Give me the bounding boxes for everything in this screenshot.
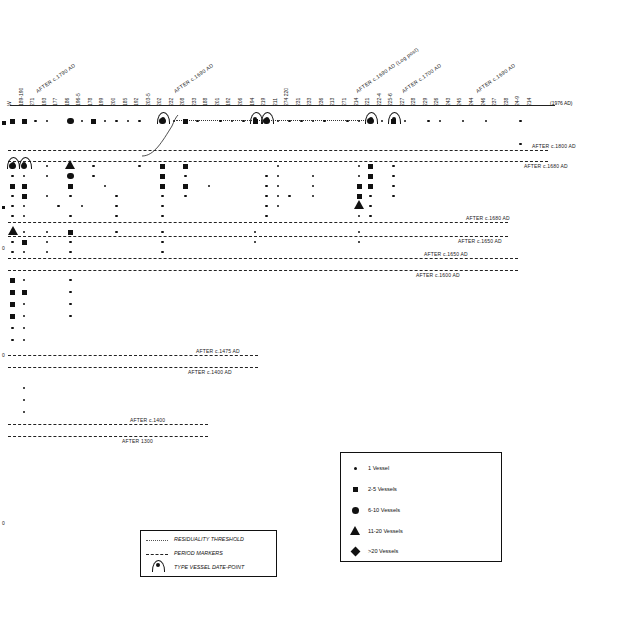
data-point-d1 <box>92 165 95 168</box>
left-margin-marker <box>2 121 6 125</box>
data-point-d1 <box>11 215 14 218</box>
data-point-d1 <box>69 195 72 198</box>
diagonal-annotation: AFTER c.1690 AD <box>475 62 517 94</box>
data-point-d1 <box>11 241 14 244</box>
data-point-d1 <box>115 215 118 218</box>
type-vessel-dot <box>392 117 396 121</box>
diagonal-annotation: AFTER c.1790 AD <box>35 62 77 94</box>
data-point-d1 <box>69 241 72 244</box>
period-label-upper: AFTER c.1400 <box>130 417 165 423</box>
data-point-d1 <box>312 185 315 188</box>
diagonal-annotation: AFTER c.1690 AD <box>173 62 215 94</box>
x-tick-label: 274 220 <box>283 88 289 106</box>
data-point-d1 <box>277 165 280 168</box>
data-point-d1 <box>69 291 72 294</box>
data-point-d2 <box>368 184 373 189</box>
data-point-d1 <box>265 205 268 208</box>
data-point-d1 <box>161 205 164 208</box>
data-point-d2 <box>368 174 373 179</box>
data-point-d1 <box>358 241 361 244</box>
data-point-d2 <box>22 240 27 245</box>
data-point-d1 <box>23 231 26 234</box>
data-point-d2 <box>183 119 188 124</box>
data-point-d1 <box>358 215 361 218</box>
legend-symbol-label: 2-5 Vessels <box>368 486 397 492</box>
data-point-d1 <box>358 175 361 178</box>
data-point-d2 <box>68 230 73 235</box>
legend-symbols-box <box>340 452 502 562</box>
data-point-d1 <box>404 120 407 123</box>
period-label-lower: AFTER c.1650 AD <box>458 238 502 244</box>
data-point-d1 <box>23 205 26 208</box>
data-point-d1 <box>23 279 26 282</box>
data-point-d1 <box>23 175 26 178</box>
data-point-d1 <box>485 120 488 123</box>
data-point-d1 <box>23 251 26 254</box>
data-point-tri <box>65 160 75 169</box>
data-point-d1 <box>138 165 141 168</box>
data-point-d1 <box>300 120 303 123</box>
period-label-lower: AFTER 1300 <box>122 438 153 444</box>
data-point-d1 <box>196 120 199 123</box>
data-point-d1 <box>23 327 26 330</box>
data-point-d2 <box>22 184 27 189</box>
period-marker-line <box>8 367 258 368</box>
data-point-d1 <box>427 120 430 123</box>
data-point-d1 <box>46 195 49 198</box>
data-point-d1 <box>219 120 222 123</box>
data-point-d1 <box>358 120 361 123</box>
data-point-d1 <box>265 215 268 218</box>
data-point-d1 <box>34 120 37 123</box>
period-marker-line <box>8 424 208 425</box>
data-point-d1 <box>23 315 26 318</box>
data-point-d1 <box>161 231 164 234</box>
data-point-d1 <box>46 175 49 178</box>
data-point-d1 <box>104 185 107 188</box>
data-point-d1 <box>392 195 395 198</box>
period-label-lower: AFTER c.1400 AD <box>188 369 232 375</box>
period-label-upper: AFTER c.1475 AD <box>196 348 240 354</box>
data-point-d1 <box>69 315 72 318</box>
data-point-d2 <box>10 290 15 295</box>
left-margin-marker <box>2 206 5 209</box>
data-point-d1 <box>92 175 95 178</box>
data-point-d1 <box>265 175 268 178</box>
data-point-d2 <box>10 278 15 283</box>
data-point-d1 <box>519 120 522 123</box>
period-marker-line <box>8 222 508 223</box>
top-axis-line <box>10 105 555 106</box>
data-point-d1 <box>392 185 395 188</box>
data-point-d1 <box>69 279 72 282</box>
data-point-d1 <box>23 303 26 306</box>
period-marker-line <box>8 236 508 237</box>
legend-symbol-glyph <box>350 526 360 535</box>
data-point-d1 <box>184 195 187 198</box>
period-marker-line <box>8 270 518 271</box>
data-point-d1 <box>127 120 130 123</box>
data-point-d1 <box>69 215 72 218</box>
type-vessel-dot <box>161 117 165 121</box>
data-point-d1 <box>81 120 84 123</box>
period-label-upper: AFTER c.1800 AD <box>532 143 576 149</box>
data-point-d1 <box>277 195 280 198</box>
data-point-d2 <box>357 194 362 199</box>
data-point-d1 <box>288 195 291 198</box>
type-vessel-dot <box>265 117 269 121</box>
data-point-d1 <box>392 175 395 178</box>
data-point-d1 <box>462 120 465 123</box>
period-marker-line <box>8 436 208 437</box>
legend-symbol-label: 6-10 Vessels <box>368 507 400 513</box>
legend-symbol-label: 1 Vessel <box>368 465 389 471</box>
data-point-d1 <box>277 175 280 178</box>
data-point-d1 <box>46 120 49 123</box>
data-point-d1 <box>11 327 14 330</box>
period-label-upper: AFTER c.1680 AD <box>466 215 510 221</box>
data-point-d1 <box>358 165 361 168</box>
data-point-d1 <box>23 339 26 342</box>
period-marker-line <box>8 150 548 151</box>
period-marker-line <box>8 161 548 162</box>
axis-right-label: (1976 AD) <box>550 100 573 106</box>
legend-symbol-glyph <box>353 487 359 493</box>
data-point-d1 <box>254 231 257 234</box>
left-margin-tick: 0 <box>2 520 5 526</box>
